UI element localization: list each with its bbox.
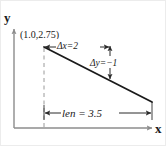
y-axis-label: y bbox=[4, 10, 11, 25]
figure-border bbox=[1, 1, 166, 146]
length-label: len = 3.5 bbox=[62, 107, 103, 119]
line-segment-diagram: y x (1.0,2.75) Δx=2 Δy=−1 len = 3.5 bbox=[0, 0, 166, 146]
x-axis-label: x bbox=[155, 121, 162, 136]
start-point-label: (1.0,2.75) bbox=[20, 29, 59, 41]
figure-container: y x (1.0,2.75) Δx=2 Δy=−1 len = 3.5 bbox=[0, 0, 166, 146]
delta-x-label: Δx=2 bbox=[56, 41, 78, 51]
delta-y-label: Δy=−1 bbox=[89, 58, 117, 68]
